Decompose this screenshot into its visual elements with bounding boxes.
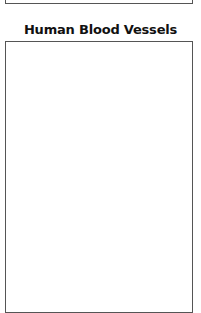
drawing-box xyxy=(5,41,193,313)
section-title: Human Blood Vessels xyxy=(0,22,201,37)
previous-drawing-box xyxy=(5,0,193,4)
